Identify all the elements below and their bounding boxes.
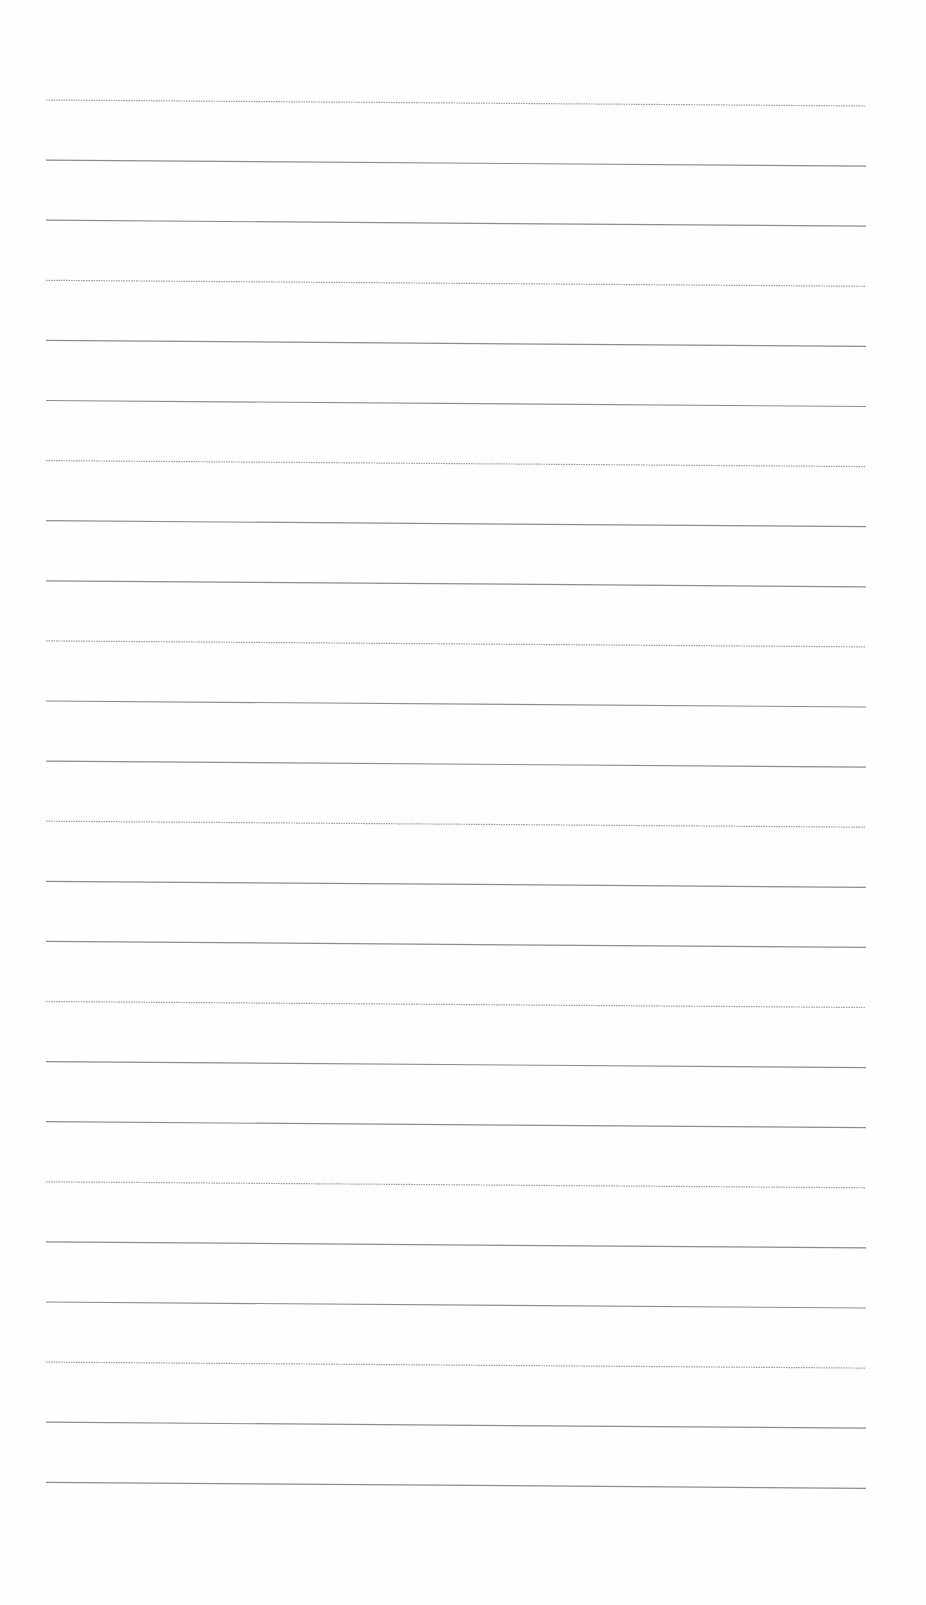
ruled-line [46, 521, 866, 527]
ruled-line [46, 100, 866, 106]
ruled-line [46, 821, 866, 827]
ruled-line [46, 340, 866, 346]
ruled-line [46, 881, 866, 887]
ruled-line [46, 1242, 866, 1248]
ruled-line [46, 1062, 866, 1068]
ruled-line [46, 581, 866, 587]
ruled-line [46, 1362, 866, 1368]
ruled-line [46, 941, 866, 947]
ruled-line [46, 1302, 866, 1308]
ruled-line [46, 461, 866, 467]
ruled-line [46, 761, 866, 767]
ruled-line [46, 401, 866, 407]
ruled-line [46, 1422, 866, 1428]
ruled-line [46, 641, 866, 647]
ruled-line [46, 701, 866, 707]
lined-paper-sheet [0, 0, 926, 1605]
ruled-lines [0, 0, 926, 1605]
ruled-line [46, 1482, 866, 1488]
ruled-line [46, 1122, 866, 1128]
ruled-line [46, 1002, 866, 1008]
ruled-line [46, 220, 866, 226]
ruled-line [46, 280, 866, 286]
ruled-line [46, 1182, 866, 1188]
ruled-line [46, 160, 866, 166]
